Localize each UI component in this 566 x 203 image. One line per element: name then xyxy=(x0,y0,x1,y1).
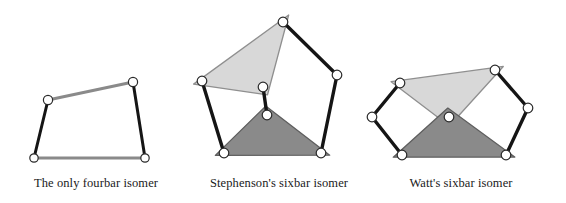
linkage-groups xyxy=(30,15,533,162)
joint-light-right xyxy=(490,65,500,75)
panel-watt xyxy=(367,65,533,160)
joint-bottom-right xyxy=(141,154,149,162)
joint-dark-apex xyxy=(262,110,272,120)
coupler-link xyxy=(48,82,133,100)
joint-light-apex xyxy=(278,17,288,27)
panel-stephenson xyxy=(194,15,342,158)
joint-left-outer xyxy=(367,112,377,122)
joint-dark-left xyxy=(219,148,229,158)
right-rocker xyxy=(133,82,145,158)
linkage-isomers-figure: The only fourbar isomer Stephenson's six… xyxy=(0,0,566,203)
left-lower-binary-link xyxy=(372,117,402,155)
joint-bottom-left xyxy=(30,154,38,162)
caption-watt-isomer: Watt's sixbar isomer xyxy=(371,176,551,191)
joint-light-left xyxy=(197,76,207,86)
left-binary-link xyxy=(202,81,224,153)
joint-right-outer xyxy=(523,103,533,113)
caption-stephenson-isomer: Stephenson's sixbar isomer xyxy=(189,176,369,191)
joint-light-lower xyxy=(258,82,268,92)
lower-right-binary-link xyxy=(321,75,337,153)
light-ternary-link xyxy=(194,15,289,95)
right-lower-binary-link xyxy=(506,108,528,155)
dark-ternary-ground-link xyxy=(215,106,329,155)
left-crank xyxy=(34,100,48,158)
upper-right-binary-link xyxy=(283,22,337,75)
joint-center xyxy=(444,112,454,122)
joint-dark-left xyxy=(397,150,407,160)
joint-top-left xyxy=(43,95,52,104)
linkage-diagram-canvas xyxy=(0,0,566,203)
right-upper-binary-link xyxy=(495,70,528,108)
joint-dark-right xyxy=(501,150,511,160)
joint-top-right xyxy=(128,77,137,86)
joint-dark-right xyxy=(316,148,326,158)
caption-fourbar-isomer: The only fourbar isomer xyxy=(6,176,186,191)
panel-fourbar xyxy=(30,77,149,162)
left-upper-binary-link xyxy=(372,83,400,117)
joint-light-left xyxy=(395,78,405,88)
joint-right-elbow xyxy=(332,70,342,80)
